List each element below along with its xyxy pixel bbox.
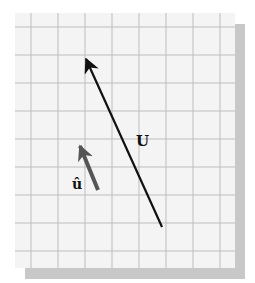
grid-paper	[15, 13, 235, 268]
vector-diagram: U û	[0, 0, 255, 283]
paper-shadow-right	[235, 24, 245, 279]
label-u-hat: û	[72, 176, 82, 192]
paper-shadow-bottom	[25, 268, 245, 279]
label-U: U	[136, 132, 149, 150]
